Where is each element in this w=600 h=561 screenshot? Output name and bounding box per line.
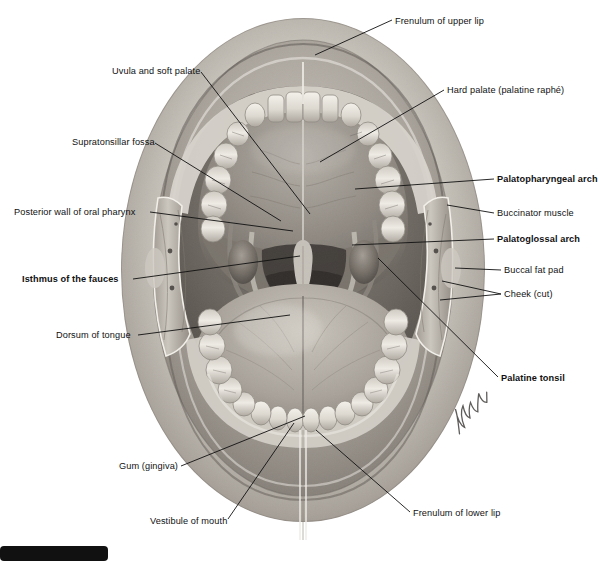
label-palatine-tonsil: Palatine tonsil xyxy=(501,373,565,384)
label-isthmus-of-fauces: Isthmus of the fauces xyxy=(22,274,119,285)
label-palatoglossal-arch: Palatoglossal arch xyxy=(497,234,580,245)
caption-badge xyxy=(0,546,108,561)
label-frenulum-lower-lip: Frenulum of lower lip xyxy=(413,508,500,519)
label-uvula-soft-palate: Uvula and soft palate xyxy=(112,66,200,77)
label-posterior-wall-pharynx: Posterior wall of oral pharynx xyxy=(14,207,135,218)
label-palatopharyngeal-arch: Palatopharyngeal arch xyxy=(497,174,598,185)
label-hard-palate: Hard palate (palatine raphé) xyxy=(447,85,564,96)
label-gum-gingiva: Gum (gingiva) xyxy=(119,461,178,472)
label-dorsum-of-tongue: Dorsum of tongue xyxy=(56,330,131,341)
label-supratonsillar-fossa: Supratonsillar fossa xyxy=(72,137,155,148)
label-buccal-fat-pad: Buccal fat pad xyxy=(504,265,564,276)
label-cheek-cut: Cheek (cut) xyxy=(504,289,553,300)
label-vestibule-of-mouth: Vestibule of mouth xyxy=(150,516,227,527)
label-frenulum-upper-lip: Frenulum of upper lip xyxy=(395,16,484,27)
label-buccinator-muscle: Buccinator muscle xyxy=(497,208,574,219)
